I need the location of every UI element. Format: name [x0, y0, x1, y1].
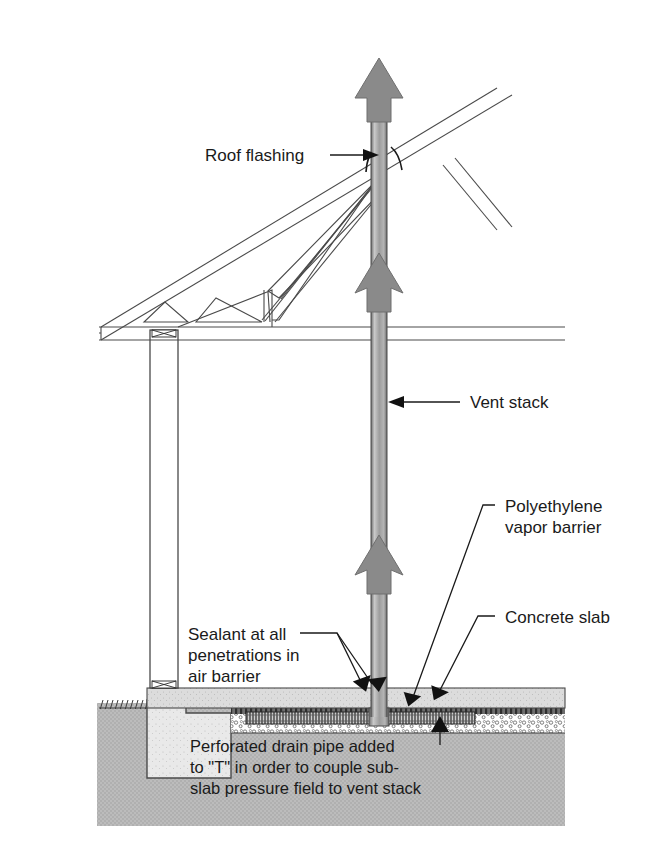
label-drain-pipe-line1: Perforated drain pipe added [190, 737, 395, 755]
label-sealant-line3: air barrier [188, 667, 261, 686]
label-poly-barrier-line2: vapor barrier [505, 518, 602, 537]
grade-line [99, 700, 147, 709]
label-sealant-line1: Sealant at all [188, 625, 286, 644]
airflow-arrow-middle [355, 253, 403, 312]
label-drain-pipe-line2: to "T" in order to couple sub- [190, 758, 399, 776]
label-vent-stack-line1: Vent stack [470, 393, 549, 412]
label-poly-barrier: Polyethylene vapor barrier [505, 497, 602, 537]
label-concrete-slab: Concrete slab [505, 608, 610, 627]
label-sealant: Sealant at all penetrations in air barri… [188, 625, 300, 686]
exterior-wall [150, 330, 178, 688]
label-sealant-line2: penetrations in [188, 646, 300, 665]
leader-poly-barrier [401, 505, 495, 709]
airflow-arrow-top [355, 58, 403, 122]
label-vent-stack: Vent stack [470, 393, 549, 412]
label-drain-pipe: Perforated drain pipe added to "T" in or… [190, 737, 422, 797]
label-poly-barrier-line1: Polyethylene [505, 497, 602, 516]
wall-bottom-connector [152, 681, 176, 688]
label-drain-pipe-line3: slab pressure field to vent stack [190, 779, 422, 797]
vent-stack-pipe [371, 92, 387, 717]
leader-vent-stack [388, 396, 460, 408]
label-roof-flashing: Roof flashing [205, 146, 304, 165]
roof-truss [99, 88, 565, 340]
label-concrete-slab-line1: Concrete slab [505, 608, 610, 627]
wall-top-connector [152, 330, 176, 337]
concrete-slab-layer [147, 688, 565, 708]
section-diagram: Roof flashing Vent stack Polyethylene va… [0, 0, 660, 860]
diagram-canvas: Roof flashing Vent stack Polyethylene va… [0, 0, 660, 860]
label-roof-flashing-line1: Roof flashing [205, 146, 304, 165]
airflow-arrow-lower [355, 535, 403, 594]
